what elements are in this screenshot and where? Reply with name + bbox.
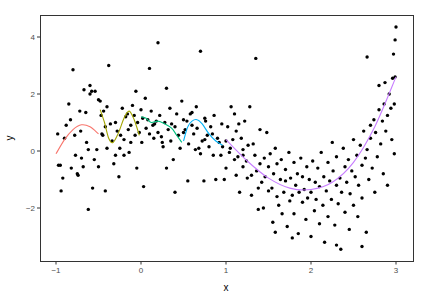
data-point xyxy=(384,129,387,132)
data-point xyxy=(211,132,214,135)
data-point xyxy=(102,109,105,112)
data-point xyxy=(93,90,96,93)
data-point xyxy=(389,107,392,110)
data-point xyxy=(152,137,155,140)
data-point xyxy=(139,108,142,111)
data-point xyxy=(82,88,85,91)
data-point xyxy=(70,166,73,169)
data-point xyxy=(74,154,77,157)
data-point xyxy=(243,119,246,122)
data-point xyxy=(265,131,268,134)
x-tick-label: 1 xyxy=(224,266,229,275)
data-point xyxy=(269,152,272,155)
data-point xyxy=(320,151,323,154)
data-point xyxy=(122,138,125,141)
data-point xyxy=(364,156,367,159)
data-point xyxy=(212,114,215,117)
data-point xyxy=(260,181,263,184)
data-point xyxy=(214,178,217,181)
data-point xyxy=(71,68,74,71)
data-point xyxy=(148,67,151,70)
data-point xyxy=(263,156,266,159)
data-point xyxy=(393,152,396,155)
data-point xyxy=(284,168,287,171)
data-point xyxy=(325,189,328,192)
data-point xyxy=(229,147,232,150)
data-point xyxy=(356,215,359,218)
data-point xyxy=(241,148,244,151)
y-tick-label: 0 xyxy=(31,147,36,156)
data-point xyxy=(195,127,198,130)
data-point xyxy=(178,147,181,150)
data-point xyxy=(350,169,353,172)
data-point xyxy=(82,165,85,168)
data-point xyxy=(99,99,102,102)
data-point xyxy=(88,84,91,87)
data-point xyxy=(190,111,193,114)
data-point xyxy=(382,172,385,175)
data-point xyxy=(199,50,202,53)
data-point xyxy=(294,184,297,187)
data-point xyxy=(379,142,382,145)
data-point xyxy=(258,128,261,131)
data-point xyxy=(161,145,164,148)
data-point xyxy=(235,129,238,132)
data-point xyxy=(318,222,321,225)
data-point xyxy=(144,127,147,130)
data-point xyxy=(161,141,164,144)
data-point xyxy=(331,141,334,144)
data-point xyxy=(371,166,374,169)
data-point xyxy=(112,162,115,165)
data-point xyxy=(277,204,280,207)
data-point xyxy=(204,119,207,122)
data-point xyxy=(305,165,308,168)
data-point xyxy=(352,138,355,141)
data-point xyxy=(394,25,397,28)
y-tick-label: 2 xyxy=(31,90,36,99)
data-point xyxy=(165,87,168,90)
data-point xyxy=(182,131,185,134)
data-point xyxy=(233,112,236,115)
data-point xyxy=(236,155,239,158)
data-point xyxy=(118,147,121,150)
data-point xyxy=(258,162,261,165)
data-point xyxy=(393,38,396,41)
data-point xyxy=(299,156,302,159)
data-point xyxy=(224,166,227,169)
data-point xyxy=(287,151,290,154)
data-point xyxy=(335,243,338,246)
data-point xyxy=(326,161,329,164)
x-tick-label: 0 xyxy=(139,266,144,275)
data-point xyxy=(136,121,139,124)
data-point xyxy=(274,231,277,234)
data-point xyxy=(343,211,346,214)
data-point xyxy=(352,204,355,207)
data-point xyxy=(192,132,195,135)
data-point xyxy=(357,184,360,187)
data-point xyxy=(97,165,100,168)
data-point xyxy=(219,154,222,157)
data-point xyxy=(369,124,372,127)
data-point xyxy=(365,231,368,234)
data-point xyxy=(288,199,291,202)
data-point xyxy=(309,191,312,194)
data-point xyxy=(279,178,282,181)
data-point xyxy=(105,147,108,150)
data-point xyxy=(314,198,317,201)
data-point xyxy=(333,223,336,226)
data-point xyxy=(280,212,283,215)
data-point xyxy=(343,165,346,168)
data-point xyxy=(313,209,316,212)
data-point xyxy=(186,179,189,182)
data-point xyxy=(203,117,206,120)
data-point xyxy=(167,128,170,131)
data-point xyxy=(65,124,68,127)
data-point xyxy=(91,186,94,189)
data-point xyxy=(105,105,108,108)
data-point xyxy=(246,144,249,147)
data-point xyxy=(267,165,270,168)
data-point xyxy=(203,138,206,141)
data-point xyxy=(202,179,205,182)
data-point xyxy=(292,212,295,215)
data-point xyxy=(221,145,224,148)
